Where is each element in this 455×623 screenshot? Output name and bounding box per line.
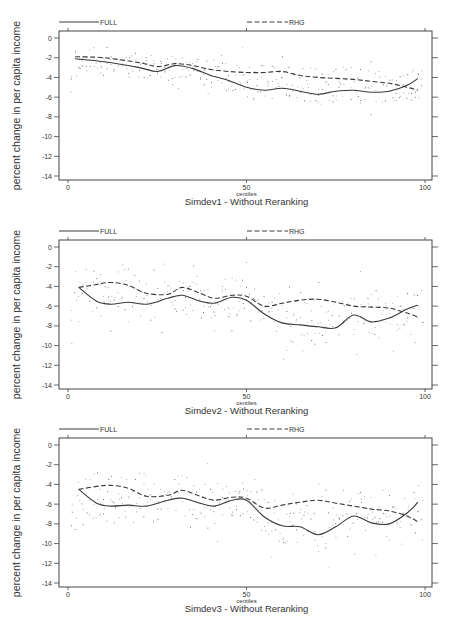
- scatter-point: [236, 509, 237, 510]
- scatter-point: [139, 281, 140, 282]
- scatter-point: [378, 299, 379, 300]
- scatter-point: [283, 542, 284, 543]
- scatter-point: [200, 79, 201, 80]
- scatter-point: [193, 485, 194, 486]
- scatter-point: [421, 85, 422, 86]
- scatter-points: [71, 262, 424, 360]
- scatter-point: [181, 76, 182, 77]
- scatter-point: [114, 300, 115, 301]
- scatter-point: [175, 300, 176, 301]
- scatter-point: [258, 299, 259, 300]
- scatter-point: [408, 506, 409, 507]
- scatter-point: [325, 543, 326, 544]
- scatter-point: [185, 297, 186, 298]
- scatter-point: [108, 297, 109, 298]
- scatter-point: [274, 501, 275, 502]
- scatter-point: [365, 517, 366, 518]
- scatter-point: [242, 280, 243, 281]
- scatter-point: [385, 303, 386, 304]
- scatter-point: [311, 340, 312, 341]
- scatter-point: [89, 49, 90, 50]
- scatter-point: [71, 525, 72, 526]
- scatter-point: [71, 310, 72, 311]
- scatter-point: [194, 70, 195, 71]
- scatter-point: [374, 334, 375, 335]
- scatter-point: [82, 504, 83, 505]
- scatter-point: [196, 61, 197, 62]
- scatter-point: [396, 508, 397, 509]
- scatter-point: [257, 301, 258, 302]
- scatter-point: [336, 100, 337, 101]
- scatter-point: [230, 313, 231, 314]
- scatter-point: [119, 517, 120, 518]
- scatter-point: [382, 314, 383, 315]
- scatter-point: [360, 100, 361, 101]
- scatter-point: [275, 529, 276, 530]
- scatter-point: [371, 294, 372, 295]
- scatter-point: [214, 330, 215, 331]
- scatter-point: [283, 539, 284, 540]
- scatter-point: [222, 63, 223, 64]
- scatter-point: [418, 485, 419, 486]
- scatter-point: [111, 296, 112, 297]
- scatter-point: [232, 515, 233, 516]
- scatter-point: [247, 490, 248, 491]
- scatter-point: [125, 309, 126, 310]
- scatter-point: [192, 310, 193, 311]
- scatter-point: [212, 317, 213, 318]
- scatter-point: [304, 515, 305, 516]
- scatter-point: [364, 496, 365, 497]
- scatter-point: [203, 312, 204, 313]
- scatter-point: [335, 523, 336, 524]
- scatter-point: [71, 79, 72, 80]
- scatter-point: [356, 513, 357, 514]
- scatter-point: [328, 74, 329, 75]
- scatter-point: [399, 97, 400, 98]
- scatter-point: [396, 522, 397, 523]
- scatter-point: [390, 80, 391, 81]
- scatter-point: [300, 92, 301, 93]
- scatter-point: [157, 73, 158, 74]
- scatter-point: [326, 81, 327, 82]
- scatter-point: [211, 87, 212, 88]
- scatter-point: [364, 321, 365, 322]
- scatter-point: [189, 509, 190, 510]
- scatter-point: [218, 80, 219, 81]
- scatter-point: [392, 507, 393, 508]
- scatter-point: [286, 84, 287, 85]
- scatter-point: [306, 80, 307, 81]
- scatter-point: [339, 87, 340, 88]
- scatter-point: [236, 506, 237, 507]
- scatter-point: [199, 489, 200, 490]
- scatter-point: [268, 84, 269, 85]
- scatter-point: [344, 306, 345, 307]
- scatter-point: [135, 275, 136, 276]
- scatter-point: [296, 74, 297, 75]
- scatter-point: [190, 527, 191, 528]
- scatter-point: [226, 486, 227, 487]
- scatter-point: [114, 299, 115, 300]
- scatter-point: [186, 62, 187, 63]
- scatter-point: [235, 280, 236, 281]
- scatter-point: [78, 482, 79, 483]
- scatter-point: [226, 90, 227, 91]
- scatter-point: [76, 300, 77, 301]
- scatter-point: [383, 84, 384, 85]
- scatter-point: [355, 81, 356, 82]
- scatter-point: [162, 332, 163, 333]
- scatter-point: [169, 492, 170, 493]
- scatter-point: [167, 492, 168, 493]
- scatter-point: [108, 300, 109, 301]
- scatter-point: [308, 87, 309, 88]
- scatter-point: [146, 476, 147, 477]
- scatter-point: [319, 333, 320, 334]
- scatter-point: [133, 275, 134, 276]
- scatter-point: [278, 310, 279, 311]
- scatter-point: [310, 519, 311, 520]
- scatter-point: [347, 317, 348, 318]
- scatter-point: [333, 71, 334, 72]
- scatter-point: [347, 513, 348, 514]
- scatter-point: [346, 69, 347, 70]
- scatter-point: [400, 527, 401, 528]
- scatter-point: [382, 522, 383, 523]
